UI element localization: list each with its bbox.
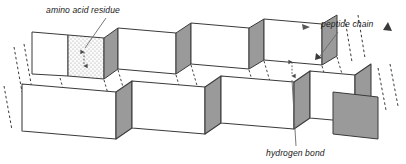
back-face-shaded-2: [176, 23, 191, 74]
dashed-edge-front-right-2: [390, 64, 398, 106]
peptide-chain-arrowhead-right: [383, 22, 392, 31]
beta-pleated-sheet-figure: amino acid residue peptide chain hydroge…: [0, 0, 406, 164]
back-face-light-2: [118, 28, 176, 74]
label-peptide-chain: peptide chain: [320, 19, 374, 29]
label-amino-acid-residue: amino acid residue: [46, 5, 120, 15]
dashed-edge-front-left: [4, 86, 12, 130]
back-face-stippled-amino-acid-residue: [68, 35, 104, 79]
front-face-light-2: [132, 81, 205, 134]
front-face-shaded-2: [205, 76, 221, 134]
front-face-light-1: [22, 84, 116, 139]
detached-face-shaded: [333, 92, 378, 139]
front-face-light-3: [221, 76, 294, 129]
dashed-edge-front-right: [378, 68, 386, 110]
detached-right-panel: [333, 92, 378, 139]
back-face-light-1: [32, 32, 68, 76]
dashed-edge-back-left-2: [24, 44, 32, 89]
back-face-shaded-3: [249, 19, 264, 69]
label-hydrogen-bond: hydrogen bond: [266, 148, 325, 158]
back-face-light-3: [191, 23, 249, 69]
back-face-light-4: [264, 19, 322, 65]
front-face-shaded-1: [116, 81, 132, 139]
front-face-shaded-3: [294, 71, 310, 129]
pleated-sheet-illustration: amino acid residue peptide chain hydroge…: [0, 0, 406, 164]
dashed-edge-back-left: [14, 47, 22, 92]
back-face-shaded-1: [104, 28, 118, 79]
